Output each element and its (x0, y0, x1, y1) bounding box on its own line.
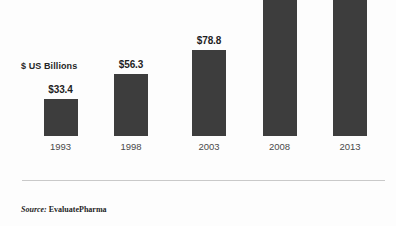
source-label: Source: (21, 205, 49, 214)
bar-value-label: $33.4 (48, 84, 73, 95)
x-axis-tick-label: 1993 (50, 141, 71, 152)
source-note: Source: EvaluatePharma (21, 205, 107, 214)
bar-value-label: $56.3 (119, 59, 144, 70)
bar-value-label: $78.8 (197, 35, 222, 46)
bar-group: $56.31998 (96, 0, 166, 136)
x-axis-tick-label: 2013 (339, 141, 360, 152)
bar[interactable] (114, 74, 148, 136)
bar-group: $33.41993 (26, 0, 96, 136)
plot-area: $33.41993$56.31998$78.82003$129.22008$13… (0, 0, 396, 181)
source-value: EvaluatePharma (49, 205, 107, 214)
bar[interactable] (333, 0, 367, 136)
bar-group: $78.82003 (174, 0, 244, 136)
x-axis-tick-label: 1998 (120, 141, 141, 152)
bar[interactable] (263, 0, 297, 136)
bar[interactable] (44, 99, 78, 136)
bar[interactable] (192, 50, 226, 136)
bar-group: $129.22008 (245, 0, 315, 136)
x-axis-tick-label: 2003 (198, 141, 219, 152)
bar-group: $137.52013 (315, 0, 385, 136)
bar-chart-figure: $ US Billions $33.41993$56.31998$78.8200… (0, 0, 396, 226)
x-axis-baseline (22, 180, 385, 181)
x-axis-tick-label: 2008 (269, 141, 290, 152)
